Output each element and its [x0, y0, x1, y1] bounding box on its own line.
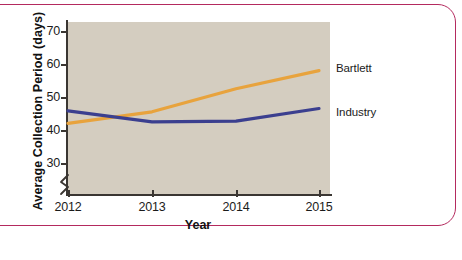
screenshot-root: 70 60 50 40 30 2012 2013 2014 2015 Avera…: [0, 0, 462, 260]
series-lines: [0, 0, 462, 260]
line-chart-figure: 70 60 50 40 30 2012 2013 2014 2015 Avera…: [0, 0, 462, 260]
series-label-industry: Industry: [336, 106, 376, 118]
series-label-bartlett: Bartlett: [336, 62, 372, 74]
